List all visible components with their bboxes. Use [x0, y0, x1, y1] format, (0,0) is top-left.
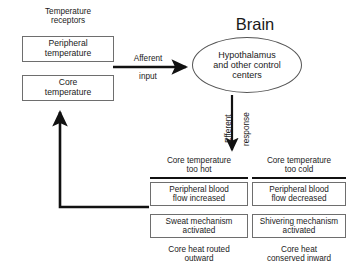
branch-cold-caption: Core heat conserved inward [252, 245, 346, 263]
peripheral-blood-flow-increased-label: Peripheral blood flow increased [151, 185, 247, 203]
peripheral-temperature-box: Peripheral temperature [22, 36, 114, 62]
branch-cold-heading: Core temperature too cold [252, 156, 346, 174]
efferent-label-word2: response [242, 112, 251, 146]
peripheral-temperature-label: Peripheral temperature [23, 39, 113, 58]
sweat-mechanism-activated-label: Sweat mechanism activated [151, 217, 247, 235]
hypothalamus-ellipse: Hypothalamus and other control centers [192, 37, 302, 93]
peripheral-blood-flow-decreased-box: Peripheral blood flow decreased [252, 182, 346, 206]
afferent-label-line2: input [116, 72, 180, 81]
thermoregulation-diagram: Temperature receptors Peripheral tempera… [0, 0, 348, 274]
branch-cold-divider [252, 177, 346, 179]
branch-hot-heading: Core temperature too hot [150, 156, 248, 174]
afferent-label-line1: Afferent [116, 54, 180, 63]
shivering-mechanism-activated-label: Shivering mechanism activated [253, 217, 345, 235]
sweat-mechanism-activated-box: Sweat mechanism activated [150, 214, 248, 238]
shivering-mechanism-activated-box: Shivering mechanism activated [252, 214, 346, 238]
branch-hot-caption: Core heat routed outward [150, 245, 248, 263]
peripheral-blood-flow-increased-box: Peripheral blood flow increased [150, 182, 248, 206]
branch-hot-divider [150, 177, 248, 179]
efferent-label-word1: Efferent [224, 114, 233, 143]
peripheral-blood-flow-decreased-label: Peripheral blood flow decreased [253, 185, 345, 203]
feedback-return-arrow [60, 112, 149, 207]
hypothalamus-label: Hypothalamus and other control centers [199, 50, 295, 80]
core-temperature-box: Core temperature [22, 75, 114, 101]
brain-title: Brain [200, 15, 310, 33]
temperature-receptors-heading: Temperature receptors [22, 7, 114, 25]
core-temperature-label: Core temperature [23, 78, 113, 97]
